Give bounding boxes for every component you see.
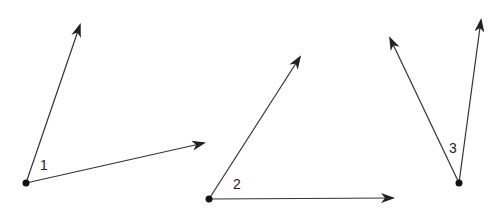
angle-1-ray-b	[26, 143, 204, 183]
angle-1-vertex-point	[23, 180, 30, 187]
angle-3-ray-b	[459, 20, 481, 183]
angle-2-label: 2	[233, 176, 241, 192]
angles-diagram: 1 2 3	[0, 0, 504, 220]
angle-2: 2	[206, 57, 394, 203]
angle-2-vertex-point	[206, 196, 213, 203]
angle-3-label: 3	[449, 140, 457, 156]
angle-2-ray-b	[209, 198, 393, 199]
angle-3-ray-a	[390, 38, 459, 183]
angle-2-ray-a	[209, 57, 300, 199]
angle-1-label: 1	[40, 157, 48, 173]
angle-3-vertex-point	[456, 180, 463, 187]
angle-3: 3	[390, 20, 481, 187]
angle-1-ray-a	[26, 25, 80, 183]
angle-1: 1	[23, 25, 205, 187]
